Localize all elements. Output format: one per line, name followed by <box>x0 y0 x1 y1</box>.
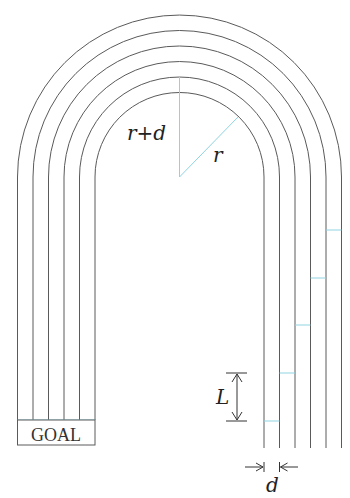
radius-guides <box>180 77 239 177</box>
dimension-L: L <box>215 373 247 421</box>
label-L: L <box>215 385 229 409</box>
dimension-d: d <box>245 462 298 497</box>
label-d: d <box>266 473 279 497</box>
goal: GOAL <box>18 420 96 445</box>
radius-r-line <box>180 117 239 177</box>
label-r-plus-d: r+d <box>127 121 166 145</box>
track-diagram: GOAL r+d r L d <box>0 0 350 498</box>
start-marks <box>264 230 342 421</box>
goal-label: GOAL <box>31 425 81 445</box>
label-r: r <box>213 143 224 167</box>
